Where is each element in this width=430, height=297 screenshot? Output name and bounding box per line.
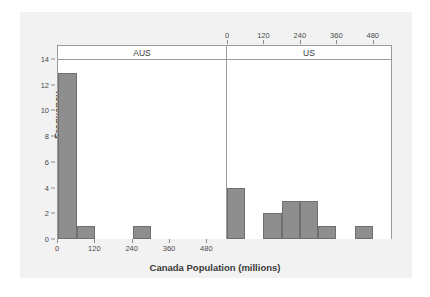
y-axis-tick-mark: [51, 161, 55, 162]
x-axis-tick-label: 480: [200, 244, 213, 253]
x-axis-tick-mark: [169, 239, 170, 243]
x-axis-tick-label: 0: [225, 31, 229, 40]
x-axis-tick-label: 0: [55, 244, 59, 253]
histogram-bar: [77, 226, 96, 239]
y-axis: 02468101214: [0, 45, 57, 239]
y-axis-tick-mark: [51, 187, 55, 188]
panel-container: [58, 60, 391, 239]
y-axis-tick-label: 6: [9, 157, 49, 166]
x-axis-tick-label: 480: [367, 31, 380, 40]
x-axis-tick-label: 240: [125, 244, 138, 253]
panel-header-strip: AUS US: [58, 46, 391, 60]
histogram-bar: [133, 226, 152, 239]
y-axis-tick-label: 14: [9, 55, 49, 64]
histogram-bar: [227, 188, 245, 239]
x-axis-tick-mark: [206, 239, 207, 243]
x-axis-tick-label: 120: [257, 31, 270, 40]
panel-us: [227, 60, 391, 239]
x-axis-tick-mark: [336, 40, 337, 44]
histogram-bar: [355, 226, 373, 239]
x-axis-tick-mark: [263, 40, 264, 44]
plot-area-us: [227, 60, 391, 239]
y-axis-tick-mark: [51, 84, 55, 85]
x-axis-tick-label: 360: [163, 244, 176, 253]
histogram-bar: [282, 201, 300, 239]
y-axis-tick-mark: [51, 213, 55, 214]
y-axis-tick-label: 10: [9, 106, 49, 115]
x-axis-tick-mark: [227, 40, 228, 44]
plot-frame: AUS US: [57, 45, 392, 239]
y-axis-tick-mark: [51, 239, 55, 240]
histogram-bar: [318, 226, 336, 239]
y-axis-tick-label: 12: [9, 80, 49, 89]
x-axis-tick-mark: [94, 239, 95, 243]
x-axis-tick-mark: [373, 40, 374, 44]
panel-aus: [58, 60, 227, 239]
panel-header-aus: AUS: [58, 46, 227, 59]
plot-area-aus: [58, 60, 226, 239]
x-axis-tick-label: 360: [330, 31, 343, 40]
y-axis-tick-mark: [51, 59, 55, 60]
histogram-figure: Frequency 02468101214 0120240360480 AUS …: [0, 0, 430, 297]
x-axis-tick-mark: [132, 239, 133, 243]
x-axis-tick-label: 240: [294, 31, 307, 40]
y-axis-tick-label: 0: [9, 235, 49, 244]
x-axis-tick-label: 120: [88, 244, 101, 253]
y-axis-tick-mark: [51, 110, 55, 111]
y-axis-tick-label: 4: [9, 183, 49, 192]
x-axis-title: Canada Population (millions): [0, 262, 430, 273]
histogram-bar: [263, 213, 281, 239]
y-axis-tick-label: 8: [9, 132, 49, 141]
x-axis-tick-mark: [57, 239, 58, 243]
x-axis-bottom-aus: 0120240360480: [57, 239, 226, 255]
y-axis-tick-label: 2: [9, 209, 49, 218]
x-axis-tick-mark: [300, 40, 301, 44]
histogram-bar: [58, 73, 77, 239]
histogram-bar: [300, 201, 318, 239]
panel-header-us: US: [227, 46, 391, 59]
x-axis-top-us: 0120240360480: [227, 31, 392, 45]
y-axis-tick-mark: [51, 136, 55, 137]
